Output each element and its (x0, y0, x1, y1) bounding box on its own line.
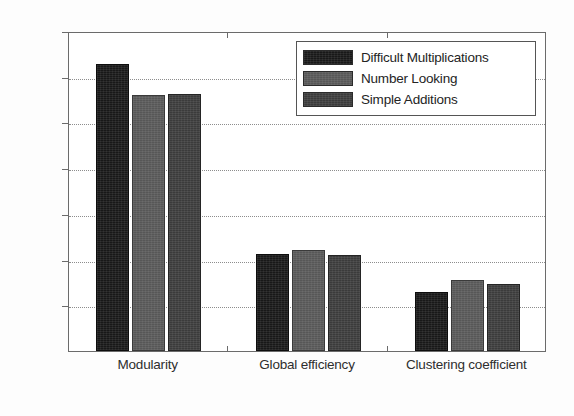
bar (328, 255, 361, 351)
bar (168, 94, 201, 351)
bar (292, 250, 325, 351)
bar (132, 95, 165, 351)
x-tick-mark (227, 346, 228, 352)
bar (415, 292, 448, 351)
bar (96, 64, 129, 351)
bar (487, 284, 520, 351)
legend-item: Simple Additions (303, 89, 529, 110)
bar (256, 254, 289, 351)
x-tick-mark (387, 32, 388, 38)
legend-item: Number Looking (303, 68, 529, 89)
legend-item: Difficult Multiplications (303, 47, 529, 68)
legend-label: Simple Additions (361, 92, 458, 107)
legend-label: Difficult Multiplications (361, 50, 489, 65)
chart-legend: Difficult MultiplicationsNumber LookingS… (296, 41, 536, 116)
bar (451, 280, 484, 351)
x-tick-label: Global efficiency (259, 357, 354, 372)
legend-swatch-icon (303, 50, 353, 65)
x-tick-label: Modularity (118, 357, 178, 372)
legend-swatch-icon (303, 92, 353, 107)
legend-swatch-icon (303, 71, 353, 86)
legend-label: Number Looking (361, 71, 457, 86)
x-tick-mark (227, 32, 228, 38)
bar-chart-figure: 0.350.30.250.20.150.10.050 ModularityGlo… (0, 0, 574, 416)
x-tick-label: Clustering coefficient (406, 357, 527, 372)
x-tick-mark (387, 346, 388, 352)
